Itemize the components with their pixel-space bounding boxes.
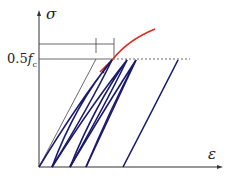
half-fc-subscript: c <box>33 60 37 69</box>
x-axis-label: ε <box>208 145 216 163</box>
stress-strain-diagram <box>0 0 231 180</box>
half-fc-coefficient: 0.5 <box>7 51 28 66</box>
y-axis-label: σ <box>46 5 56 23</box>
x-axis-arrow-icon <box>217 165 223 169</box>
hysteresis-loops <box>39 60 178 167</box>
y-axis-arrow-icon <box>37 10 41 16</box>
half-fc-label: 0.5fc <box>7 51 37 69</box>
